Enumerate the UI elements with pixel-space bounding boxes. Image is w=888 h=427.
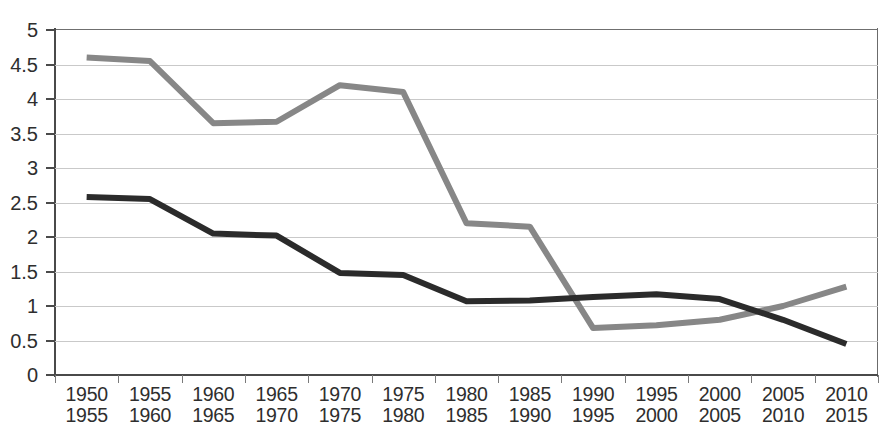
x-axis-tick-mark: [435, 375, 436, 383]
x-axis-tick-mark: [245, 375, 246, 383]
y-axis-tick-label: 2: [27, 227, 38, 247]
gridline: [55, 168, 878, 169]
y-axis-tick-label: 4.5: [10, 55, 38, 75]
y-axis-tick-label: 0: [27, 365, 38, 385]
y-axis-tick-mark: [46, 374, 55, 376]
x-axis-category-year: 2010: [751, 405, 814, 426]
x-axis-category-year: 1975: [372, 384, 435, 405]
gridline: [55, 65, 878, 66]
y-axis-tick-label: 3.5: [10, 124, 38, 144]
x-axis-category-year: 1980: [372, 405, 435, 426]
x-axis-category-year: 1955: [55, 405, 118, 426]
x-axis-category-year: 1985: [435, 405, 498, 426]
x-axis-tick-mark: [308, 375, 309, 383]
gridline: [55, 134, 878, 135]
y-axis-tick-label: 2.5: [10, 193, 38, 213]
x-axis-tick-mark: [815, 375, 816, 383]
x-axis-category-year: 2010: [815, 384, 878, 405]
x-axis-category-label: 19651970: [245, 384, 308, 427]
y-axis: 00.511.522.533.544.55: [0, 0, 50, 427]
y-axis-tick-mark: [46, 167, 55, 169]
y-axis-tick-mark: [46, 64, 55, 66]
gridline: [55, 237, 878, 238]
y-axis-tick-label: 5: [27, 20, 38, 40]
gridline: [55, 99, 878, 100]
x-axis-category-year: 1995: [625, 384, 688, 405]
x-axis-tick-mark: [688, 375, 689, 383]
gridline: [55, 272, 878, 273]
x-axis-category-label: 19551960: [118, 384, 181, 427]
y-axis-tick-mark: [46, 236, 55, 238]
y-axis-tick-mark: [46, 133, 55, 135]
x-axis-category-year: 1965: [245, 384, 308, 405]
y-axis-tick-mark: [46, 271, 55, 273]
x-axis-category-year: 1970: [308, 384, 371, 405]
y-axis-tick-label: 1.5: [10, 262, 38, 282]
x-axis-category-label: 20052010: [751, 384, 814, 427]
x-axis-category-label: 19901995: [562, 384, 625, 427]
y-axis-tick-label: 3: [27, 158, 38, 178]
y-axis-tick-mark: [46, 29, 55, 31]
x-axis-category-label: 20002005: [688, 384, 751, 427]
x-axis-category-year: 1980: [435, 384, 498, 405]
x-axis-tick-mark: [55, 375, 56, 383]
x-axis-category-year: 2005: [751, 384, 814, 405]
x-axis-tick-mark: [372, 375, 373, 383]
y-axis-tick-mark: [46, 305, 55, 307]
x-axis-category-year: 1950: [55, 384, 118, 405]
x-axis-labels: 1950195519551960196019651965197019701975…: [55, 384, 878, 427]
x-axis-category-year: 2000: [625, 405, 688, 426]
x-axis-tick-mark: [878, 375, 879, 383]
plot-area: [55, 30, 878, 375]
x-axis-tick-mark: [498, 375, 499, 383]
y-axis-tick-mark: [46, 340, 55, 342]
x-axis-category-year: 1960: [182, 384, 245, 405]
y-axis-tick-label: 1: [27, 296, 38, 316]
y-axis-tick-mark: [46, 98, 55, 100]
y-axis-tick-label: 4: [27, 89, 38, 109]
x-axis-tick-mark: [118, 375, 119, 383]
gridline: [55, 306, 878, 307]
x-axis-category-year: 1995: [562, 405, 625, 426]
x-axis-category-year: 2015: [815, 405, 878, 426]
x-axis-category-label: 19751980: [372, 384, 435, 427]
x-axis-category-year: 1975: [308, 405, 371, 426]
x-axis-tick-mark: [625, 375, 626, 383]
x-axis-category-label: 19601965: [182, 384, 245, 427]
x-axis-category-label: 19851990: [498, 384, 561, 427]
x-axis-category-year: 1990: [562, 384, 625, 405]
x-axis-category-label: 19501955: [55, 384, 118, 427]
x-axis-category-label: 19701975: [308, 384, 371, 427]
x-axis-category-label: 19801985: [435, 384, 498, 427]
x-axis-category-year: 2005: [688, 405, 751, 426]
x-axis-tick-mark: [561, 375, 562, 383]
y-axis-tick-mark: [46, 202, 55, 204]
x-axis-category-year: 1985: [498, 384, 561, 405]
x-axis-category-label: 19952000: [625, 384, 688, 427]
x-axis-category-label: 20102015: [815, 384, 878, 427]
line-chart: 00.511.522.533.544.55 195019551955196019…: [0, 0, 888, 427]
x-axis-category-year: 1960: [118, 405, 181, 426]
x-axis-tick-mark: [182, 375, 183, 383]
x-axis-category-year: 2000: [688, 384, 751, 405]
x-axis-category-year: 1965: [182, 405, 245, 426]
x-axis-category-year: 1990: [498, 405, 561, 426]
gridline: [55, 203, 878, 204]
x-axis-category-year: 1970: [245, 405, 308, 426]
x-axis-tick-mark: [751, 375, 752, 383]
y-axis-tick-label: 0.5: [10, 331, 38, 351]
x-axis-category-year: 1955: [118, 384, 181, 405]
gridline: [55, 341, 878, 342]
